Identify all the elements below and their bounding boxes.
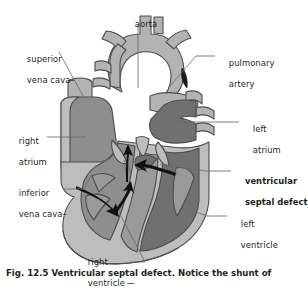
right-pulmonary-branch-upper (95, 61, 111, 73)
label-svc-dash: – (70, 75, 74, 85)
label-right-atrium: right atrium (8, 126, 47, 177)
label-right-atrium-line2: atrium (19, 157, 47, 167)
label-superior-vena-cava: superior vena cava– (16, 44, 75, 95)
label-pulmonary-artery: pulmonary artery (218, 48, 274, 99)
label-pulmonary-artery-line1: pulmonary (229, 58, 275, 68)
label-left-ventricle: left ventricle (230, 209, 278, 260)
pulmonary-vein-lower (196, 123, 214, 135)
pulmonary-vein-upper (196, 107, 214, 119)
label-right-atrium-line1: right (19, 136, 39, 146)
label-left-ventricle-line2: ventricle (241, 240, 278, 250)
label-pulmonary-artery-line2: artery (229, 79, 255, 89)
label-right-ventricle-line1: right (88, 257, 108, 267)
label-ivc-dash: – (62, 209, 66, 219)
label-left-atrium-line1: left (253, 124, 267, 134)
right-pulmonary-branch-lower (93, 78, 110, 89)
label-right-ventricle-line2: ventricle (88, 278, 125, 288)
label-left-atrium-line2: atrium (253, 145, 281, 155)
label-ventricular-septal-defect-line2: septal defect (245, 197, 308, 207)
figure-caption: Fig. 12.5 Ventricular septal defect. Not… (6, 268, 284, 278)
label-superior-vena-cava-line1: superior (27, 54, 62, 64)
label-inferior-vena-cava-line1: inferior (19, 188, 49, 198)
label-inferior-vena-cava: inferior vena cava– (8, 178, 67, 229)
label-inferior-vena-cava-line2: vena cava (19, 209, 63, 219)
label-left-ventricle-line1: left (241, 219, 255, 229)
label-superior-vena-cava-line2: vena cava (27, 75, 71, 85)
label-ventricular-septal-defect-line1: ventricular (245, 176, 297, 186)
label-left-atrium: left atrium (242, 114, 281, 165)
label-aorta: aorta (124, 9, 157, 40)
label-rv-dash: — (125, 278, 135, 288)
label-aorta-text: aorta (135, 19, 157, 29)
ascending-aorta-trunk (110, 44, 126, 88)
